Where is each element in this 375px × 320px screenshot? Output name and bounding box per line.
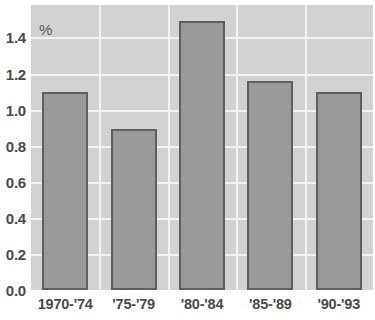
- y-axis-tick-label: 0.4: [6, 209, 26, 226]
- x-axis-tick-label: 1970-'74: [38, 296, 93, 312]
- y-axis-tick-label: 0.2: [6, 245, 26, 262]
- y-axis-tick-label: 1.2: [6, 65, 26, 82]
- bar: [42, 92, 88, 290]
- x-axis-tick-label: '75-'79: [112, 296, 155, 312]
- bar: [111, 129, 157, 290]
- unit-label: %: [39, 21, 53, 38]
- gridline-vertical: [99, 5, 101, 290]
- bar: [247, 81, 293, 290]
- y-axis: 0.00.20.40.60.81.01.21.4: [0, 0, 31, 320]
- x-axis-tick-label: '85-'89: [249, 296, 292, 312]
- bar: [179, 21, 225, 290]
- x-axis-tick-label: '90-'93: [318, 296, 361, 312]
- y-axis-tick-label: 0.8: [6, 137, 26, 154]
- gridline-vertical: [168, 5, 170, 290]
- y-axis-tick-label: 0.6: [6, 173, 26, 190]
- bar: [316, 92, 362, 290]
- plot-area: %: [31, 5, 373, 290]
- gridline-vertical: [236, 5, 238, 290]
- y-axis-tick-label: 1.0: [6, 101, 26, 118]
- y-axis-tick-label: 1.4: [6, 29, 26, 46]
- x-axis-tick-label: '80-'84: [181, 296, 224, 312]
- x-axis: 1970-'74'75-'79'80-'84'85-'89'90-'93: [31, 292, 373, 320]
- y-axis-tick-label: 0.0: [6, 282, 26, 299]
- bar-chart: 0.00.20.40.60.81.01.21.4 % 1970-'74'75-'…: [0, 0, 375, 320]
- gridline-vertical: [305, 5, 307, 290]
